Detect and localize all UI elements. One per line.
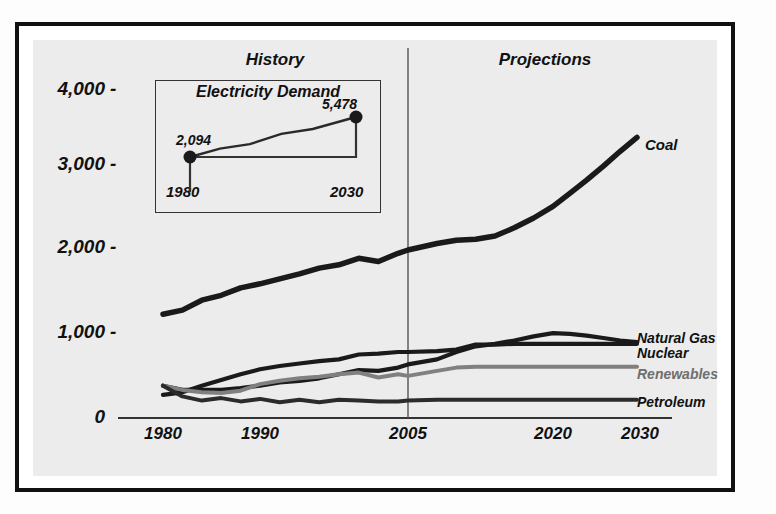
inset-series-layer — [184, 111, 363, 193]
series-line-natural-gas — [163, 333, 637, 390]
figure-root: 4,000 - 3,000 - 2,000 - 1,000 - 0 1980 1… — [0, 0, 776, 514]
chart-svg — [0, 0, 776, 514]
series-layer — [163, 137, 637, 402]
inset-end-point — [350, 111, 363, 124]
inset-start-point — [184, 151, 197, 164]
series-line-coal — [163, 137, 637, 314]
inset-demand-line — [190, 117, 356, 157]
inset-baseline — [190, 117, 356, 192]
